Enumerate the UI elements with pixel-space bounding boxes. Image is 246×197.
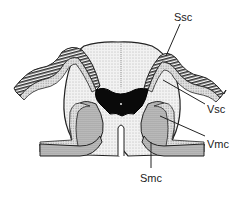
label-smc: Smc [140, 173, 162, 184]
spinal-cord-diagram: Ssc Vsc Vmc Smc [0, 0, 246, 197]
label-vmc: Vmc [207, 139, 229, 150]
label-vsc: Vsc [207, 104, 225, 115]
spinal-cord-illustration [0, 0, 246, 197]
central-canal [120, 103, 122, 105]
leader-line-ssc [166, 24, 180, 56]
ventral-fissure [118, 125, 124, 156]
label-ssc: Ssc [174, 12, 192, 23]
